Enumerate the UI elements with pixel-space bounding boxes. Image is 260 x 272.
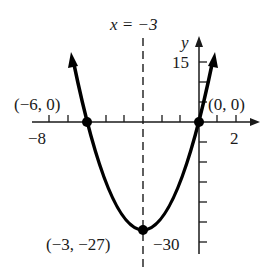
curve-arrow-left-icon bbox=[68, 52, 78, 68]
symmetry-label: x = −3 bbox=[110, 16, 158, 33]
y-tick-15: 15 bbox=[172, 54, 189, 71]
point-label-origin: (0, 0) bbox=[208, 96, 245, 113]
x-tick-neg8: −8 bbox=[28, 130, 46, 147]
x-axis-arrow-icon bbox=[250, 118, 260, 126]
point-label-vertex: (−3, −27) bbox=[46, 236, 111, 253]
point-origin bbox=[194, 117, 204, 127]
y-axis-arrow-icon bbox=[195, 36, 203, 47]
y-axis-label: y bbox=[181, 34, 189, 51]
symmetry-text: x = −3 bbox=[110, 15, 158, 34]
y-tick-neg30: −30 bbox=[153, 236, 180, 253]
point-label-neg6-0: (−6, 0) bbox=[14, 96, 60, 113]
point-vertex bbox=[138, 225, 148, 235]
point-neg6-0 bbox=[82, 117, 92, 127]
x-tick-2: 2 bbox=[230, 130, 239, 147]
curve-arrow-right-icon bbox=[208, 52, 218, 68]
